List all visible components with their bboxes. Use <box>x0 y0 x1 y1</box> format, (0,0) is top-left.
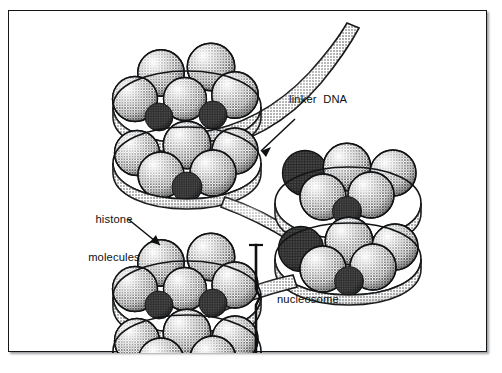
label-linker-dna: linker DNA <box>289 93 347 106</box>
histone-sphere-recessed <box>145 103 173 131</box>
histone-sphere-recessed <box>145 291 173 319</box>
figure-frame: linker DNA histone molecules nucleosome <box>8 10 487 352</box>
histone-sphere-recessed <box>172 172 202 202</box>
label-nucleosome: nucleosome <box>277 293 339 306</box>
histone-sphere-recessed <box>335 267 364 296</box>
histone-sphere-recessed <box>199 101 227 129</box>
figure-canvas: linker DNA histone molecules nucleosome <box>0 0 502 373</box>
label-histone-molecules-line1: histone <box>78 213 150 226</box>
histone-sphere-recessed <box>199 289 227 317</box>
nucleosome-illustration <box>9 11 488 353</box>
nucleosome-2 <box>275 143 421 305</box>
label-histone-molecules-line2: molecules <box>78 251 150 264</box>
label-histone-molecules: histone molecules <box>78 188 150 289</box>
